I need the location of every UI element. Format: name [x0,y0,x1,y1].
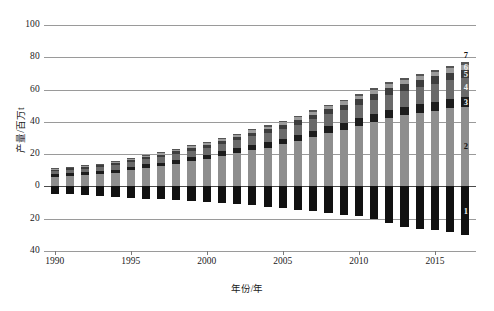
bar-column[interactable] [446,25,454,251]
gridline [44,154,476,155]
bar-segment-2 [187,161,195,186]
bar-segment-3 [142,164,150,167]
bar-segment-1 [142,186,150,198]
bar-column[interactable] [142,25,150,251]
bar-segment-6 [96,164,104,165]
series-label-2: 2 [459,142,473,151]
bar-segment-7 [400,78,408,80]
bar-segment-6 [279,122,287,125]
bar-column[interactable] [431,25,439,251]
bar-column[interactable] [51,25,59,251]
bar-segment-5 [370,94,378,100]
bar-segment-5 [279,125,287,129]
bar-segment-2 [96,174,104,186]
bar-segment-5 [111,163,119,165]
bar-segment-5 [233,137,241,141]
bar-segment-6 [400,80,408,84]
bar-column[interactable] [279,25,287,251]
bar-segment-1 [294,186,302,209]
bar-column[interactable] [385,25,393,251]
bar-column[interactable] [294,25,302,251]
bar-column[interactable] [127,25,135,251]
bar-segment-4 [51,171,59,174]
bar-segment-4 [385,95,393,110]
bar-segment-4 [309,119,317,130]
bar-segment-5 [157,155,165,158]
bar-column[interactable] [370,25,378,251]
gridline [44,57,476,58]
bar-column[interactable] [355,25,363,251]
bar-column[interactable] [340,25,348,251]
bar-segment-7 [127,158,135,159]
plot-area: 7654321 [44,25,476,251]
bar-segment-4 [446,80,454,98]
bar-segment-5 [309,115,317,120]
gridline [44,219,476,220]
bar-segment-6 [172,150,180,152]
gridline [44,122,476,123]
series-label-5: 5 [459,70,473,79]
bar-column[interactable] [157,25,165,251]
bar-segment-3 [324,126,332,133]
bar-segment-6 [111,162,119,163]
bar-segment-4 [431,84,439,102]
bar-segment-3 [294,135,302,141]
bar-segment-5 [340,105,348,110]
bar-column[interactable] [309,25,317,251]
bar-segment-4 [127,162,135,167]
bar-segment-1 [400,186,408,226]
bar-segment-3 [81,172,89,175]
bar-segment-4 [400,91,408,107]
bar-segment-1 [81,186,89,195]
bar-segment-7 [203,142,211,143]
bar-segment-4 [264,133,272,142]
x-axis-tick [435,251,436,255]
bar-segment-7 [279,121,287,122]
bar-segment-2 [127,170,135,186]
x-axis-tick-label: 2005 [263,256,303,266]
bar-segment-6 [187,146,195,148]
bar-segment-4 [66,170,74,173]
bar-column[interactable] [66,25,74,251]
bar-segment-4 [248,136,256,145]
bar-column[interactable] [248,25,256,251]
bar-column[interactable] [172,25,180,251]
bar-segment-5 [218,141,226,144]
bar-column[interactable] [187,25,195,251]
bar-segment-3 [264,142,272,147]
bar-segment-3 [279,139,287,145]
bar-segment-5 [446,73,454,81]
bar-segment-5 [96,165,104,167]
bar-segment-7 [218,138,226,139]
bar-segment-7 [340,100,348,102]
bar-column[interactable] [111,25,119,251]
bar-segment-6 [324,106,332,109]
bar-segment-6 [309,112,317,115]
bar-segment-2 [233,153,241,186]
bar-column[interactable] [218,25,226,251]
bar-segment-7 [309,110,317,112]
bar-segment-7 [81,165,89,166]
bar-column[interactable] [81,25,89,251]
bar-segment-2 [51,177,59,187]
bar-segment-4 [81,169,89,173]
bar-column[interactable] [264,25,272,251]
bar-column[interactable] [416,25,424,251]
series-label-4: 4 [459,83,473,92]
bar-column[interactable] [203,25,211,251]
bar-segment-7 [416,74,424,76]
bar-segment-7 [248,129,256,130]
bar-column[interactable] [400,25,408,251]
bar-segment-1 [279,186,287,208]
bar-segment-7 [370,88,378,90]
bar-segment-7 [355,94,363,96]
bar-segment-1 [187,186,195,201]
bar-segment-3 [431,102,439,111]
bar-segment-5 [187,148,195,151]
bar-segment-2 [142,168,150,187]
bar-column[interactable] [96,25,104,251]
bar-column[interactable] [233,25,241,251]
bar-column[interactable] [324,25,332,251]
bar-segment-6 [340,101,348,104]
bar-segment-7 [66,167,74,168]
